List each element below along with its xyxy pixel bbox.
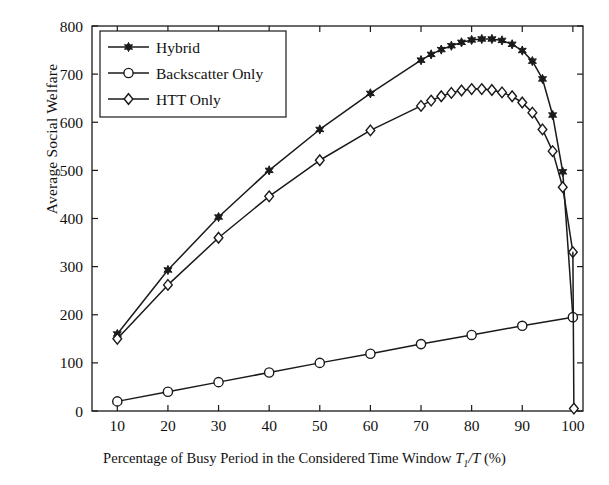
chart-figure: Average Social Welfare Percentage of Bus… (0, 0, 609, 485)
x-tick-label: 100 (561, 417, 585, 434)
y-tick-label: 600 (60, 114, 84, 131)
y-tick-label: 400 (60, 210, 84, 227)
series-htt-only-tail (570, 252, 579, 414)
y-tick-label: 100 (60, 354, 84, 371)
x-tick-label: 30 (211, 417, 227, 434)
plot-area: 102030405060708090100 010020030040050060… (0, 0, 609, 485)
y-tick-label: 700 (60, 66, 84, 83)
y-tick-label: 300 (60, 258, 84, 275)
legend-label: Backscatter Only (156, 65, 263, 82)
x-tick-label: 40 (261, 417, 277, 434)
y-tick-label: 200 (60, 306, 84, 323)
x-tick-label: 60 (363, 417, 379, 434)
x-tick-label: 80 (464, 417, 480, 434)
legend-label: HTT Only (156, 91, 221, 108)
series-htt-only (113, 84, 577, 344)
legend-label: Hybrid (156, 39, 200, 56)
y-tick-label: 500 (60, 162, 84, 179)
x-tick-label: 70 (413, 417, 429, 434)
series-backscatter-only (113, 313, 578, 406)
chart-legend: HybridBackscatter OnlyHTT Only (100, 31, 286, 117)
x-tick-label: 20 (160, 417, 176, 434)
y-tick-label: 0 (75, 403, 83, 420)
y-tick-label: 800 (60, 18, 84, 35)
x-tick-label: 10 (110, 417, 126, 434)
x-tick-label: 50 (312, 417, 328, 434)
x-tick-label: 90 (515, 417, 531, 434)
